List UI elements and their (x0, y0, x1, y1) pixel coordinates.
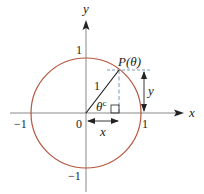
right-angle-marker (111, 105, 119, 113)
angle-label: θc (96, 98, 106, 114)
y-axis-label: y (81, 1, 89, 16)
angle-radian-superscript: c (102, 98, 106, 108)
origin-label: 0 (76, 117, 82, 131)
tick-y-positive: 1 (76, 43, 82, 57)
vertical-measure-label: y (146, 83, 154, 98)
radius-label: 1 (94, 79, 100, 93)
horizontal-measure-label: x (99, 124, 106, 139)
tick-y-negative: −1 (68, 169, 81, 183)
tick-x-negative: −1 (14, 117, 27, 131)
point-label: P(θ) (117, 54, 141, 69)
x-axis-label: x (188, 105, 195, 120)
unit-circle-diagram: y x 1 −1 −1 1 0 P(θ) 1 θc y x (0, 0, 204, 194)
tick-x-positive: 1 (142, 117, 148, 131)
